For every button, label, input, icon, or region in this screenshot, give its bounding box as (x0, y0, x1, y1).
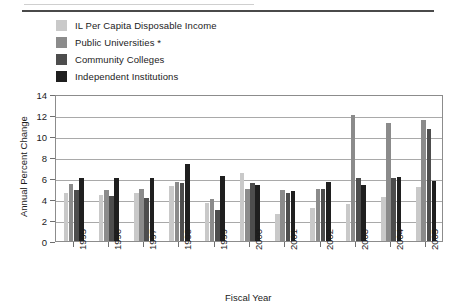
bar (210, 199, 215, 241)
bar-group (416, 96, 436, 241)
legend-label: IL Per Capita Disposable Income (75, 20, 217, 31)
bar-group (169, 96, 189, 241)
x-tick-label: 2001 (288, 229, 299, 250)
x-tick-label: 2005 (429, 229, 440, 250)
legend-label: Community Colleges (75, 54, 164, 65)
bar (427, 129, 432, 241)
bar (104, 190, 109, 241)
bar (351, 115, 356, 241)
legend-label: Public Universities * (75, 37, 161, 48)
legend-swatch-icon (56, 71, 67, 82)
x-tick-mark (178, 242, 179, 247)
x-tick-mark (390, 242, 391, 247)
bar-group (205, 96, 225, 241)
bar (316, 189, 321, 242)
bar-group (99, 96, 119, 241)
bar (139, 189, 144, 242)
bar (169, 186, 174, 241)
x-axis-title: Fiscal Year (225, 292, 271, 303)
x-tick-label: 2000 (253, 229, 264, 250)
x-tick-label: 1999 (218, 229, 229, 250)
bar (245, 189, 250, 242)
legend-swatch-icon (56, 54, 67, 65)
bar-group (381, 96, 401, 241)
bar-group (64, 96, 84, 241)
plot-area (55, 95, 443, 242)
y-tick-label: 8 (27, 153, 47, 164)
x-tick-mark (108, 242, 109, 247)
x-tick-label: 2003 (359, 229, 370, 250)
bar (280, 190, 285, 241)
bar (275, 214, 280, 241)
x-tick-label: 1995 (77, 229, 88, 250)
bar-group (134, 96, 154, 241)
legend-swatch-icon (56, 20, 67, 31)
bar-group (240, 96, 260, 241)
legend-item: Public Universities * (56, 35, 217, 50)
y-tick-label: 12 (27, 111, 47, 122)
bar-chart-figure: IL Per Capita Disposable IncomePublic Un… (0, 0, 454, 306)
header-rule (22, 10, 434, 12)
bar-group (310, 96, 330, 241)
x-tick-mark (425, 242, 426, 247)
bar (386, 123, 391, 241)
x-tick-mark (320, 242, 321, 247)
x-tick-label: 2002 (324, 229, 335, 250)
bar-group (346, 96, 366, 241)
x-tick-mark (284, 242, 285, 247)
legend-item: Community Colleges (56, 52, 217, 67)
y-tick-label: 0 (27, 237, 47, 248)
bar (175, 182, 180, 241)
bar (421, 120, 426, 241)
x-tick-mark (143, 242, 144, 247)
bar (381, 197, 386, 241)
x-tick-label: 1998 (182, 229, 193, 250)
y-tick-mark (50, 242, 55, 243)
x-tick-mark (214, 242, 215, 247)
legend-label: Independent Institutions (75, 71, 178, 82)
bar (99, 195, 104, 241)
x-tick-label: 2004 (394, 229, 405, 250)
bar (205, 203, 210, 241)
x-tick-label: 1997 (147, 229, 158, 250)
x-tick-mark (355, 242, 356, 247)
y-axis-title: Annual Percent Change (18, 116, 29, 217)
y-tick-label: 10 (27, 132, 47, 143)
bar (346, 204, 351, 241)
x-tick-mark (73, 242, 74, 247)
legend-item: IL Per Capita Disposable Income (56, 18, 217, 33)
y-tick-label: 4 (27, 195, 47, 206)
x-tick-label: 1996 (112, 229, 123, 250)
y-tick-label: 2 (27, 216, 47, 227)
x-tick-mark (249, 242, 250, 247)
chart-legend: IL Per Capita Disposable IncomePublic Un… (56, 18, 217, 86)
bar-group (275, 96, 295, 241)
bar (240, 173, 245, 241)
y-tick-label: 14 (27, 90, 47, 101)
bar (69, 184, 74, 241)
y-tick-label: 6 (27, 174, 47, 185)
bar (134, 193, 139, 241)
bar (310, 208, 315, 241)
bar (416, 187, 421, 241)
legend-swatch-icon (56, 37, 67, 48)
page-artifact-faint-line (24, 4, 254, 5)
bar (64, 193, 69, 241)
legend-item: Independent Institutions (56, 69, 217, 84)
